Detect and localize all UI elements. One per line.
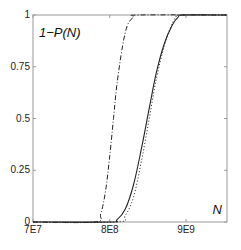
y-tick-label: 0.75 xyxy=(11,61,31,72)
x-tick-label: 8E8 xyxy=(101,224,119,235)
y-tick-label: 1 xyxy=(24,9,30,20)
series-dotted-line xyxy=(33,15,227,223)
y-tick-label: 0.25 xyxy=(11,164,31,175)
xlabel-annotation: N xyxy=(213,202,223,217)
series-solid-line xyxy=(33,15,227,222)
chart: 00.250.50.7517E78E89E91−P(N)N xyxy=(0,0,241,250)
x-tick-label: 7E7 xyxy=(24,224,42,235)
ylabel-annotation: 1−P(N) xyxy=(39,25,81,40)
x-tick-label: 9E9 xyxy=(177,224,195,235)
axes-frame xyxy=(33,15,227,222)
y-tick-label: 0.5 xyxy=(16,113,30,124)
series-dash-dot-line xyxy=(33,15,227,223)
plot-area: 00.250.50.7517E78E89E91−P(N)N xyxy=(11,9,227,235)
